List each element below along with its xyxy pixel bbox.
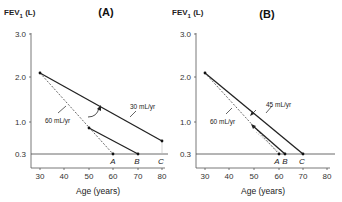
panel-b-xtick: 70 <box>299 172 308 181</box>
panel-b-ytick-03: 0.3 <box>180 150 192 159</box>
panel-a-rate-dashed-label: 60 mL/yr <box>45 117 71 125</box>
panel-b-xtick: 60 <box>275 172 284 181</box>
panel-b-point-c: C <box>299 157 305 166</box>
panel-b-line-45ml <box>205 73 303 154</box>
panel-b-ylabel: FEV1 (L) <box>172 8 204 19</box>
panel-a-xtick: 50 <box>85 172 94 181</box>
panel-b-title: (B) <box>259 8 275 20</box>
panel-a-xtick: 30 <box>36 172 45 181</box>
figure: FEV1 (L) (A) 3.0 2.0 1.0 0.3 30 40 50 60… <box>0 0 342 202</box>
panel-b-xtick: 80 <box>323 172 332 181</box>
panel-a-line-cessation <box>89 128 138 154</box>
panel-b-ytick-2: 2.0 <box>180 73 192 82</box>
panel-a-ytick-1: 1.0 <box>15 118 27 127</box>
panel-b: FEV1 (L) (B) 3.0 2.0 1.0 0.3 30 40 50 60… <box>172 8 335 196</box>
panel-a-xtick: 70 <box>134 172 143 181</box>
panel-a-ytick-03: 0.3 <box>15 150 27 159</box>
panel-a-ytick-3: 3.0 <box>15 30 27 39</box>
panel-b-line-60ml <box>205 73 279 154</box>
panel-a-curved-arrow-icon <box>88 108 99 117</box>
panel-a-rate-solid-label: 30 mL/yr <box>130 103 156 111</box>
panel-b-xlabel: Age (years) <box>241 186 285 196</box>
panel-b-point-a: A <box>273 157 279 166</box>
panel-a-xtick: 80 <box>158 172 167 181</box>
panel-b-point-b: B <box>282 157 288 166</box>
panel-a-xtick: 60 <box>109 172 118 181</box>
panel-a-ylabel: FEV1 (L) <box>4 8 36 19</box>
panel-a-xlabel: Age (years) <box>76 186 120 196</box>
panel-a-line-60ml <box>40 73 113 154</box>
panel-b-line-cessation <box>253 126 285 154</box>
panel-a-point-c: C <box>158 157 164 166</box>
panel-a: FEV1 (L) (A) 3.0 2.0 1.0 0.3 30 40 50 60… <box>4 6 168 196</box>
panel-b-rate-solid-label: 45 mL/yr <box>266 101 292 109</box>
panel-b-xtick: 40 <box>225 172 234 181</box>
panel-a-ytick-2: 2.0 <box>15 73 27 82</box>
panel-b-ytick-1: 1.0 <box>180 118 192 127</box>
panel-b-xtick: 50 <box>250 172 259 181</box>
panel-b-rate-dashed-label: 60 mL/yr <box>210 118 236 126</box>
panel-a-xtick: 40 <box>60 172 69 181</box>
panel-a-title: (A) <box>98 6 114 18</box>
panel-b-ytick-3: 3.0 <box>180 30 192 39</box>
panel-b-xtick: 30 <box>201 172 210 181</box>
panel-a-point-b: B <box>134 157 140 166</box>
panel-a-point-a: A <box>109 157 115 166</box>
